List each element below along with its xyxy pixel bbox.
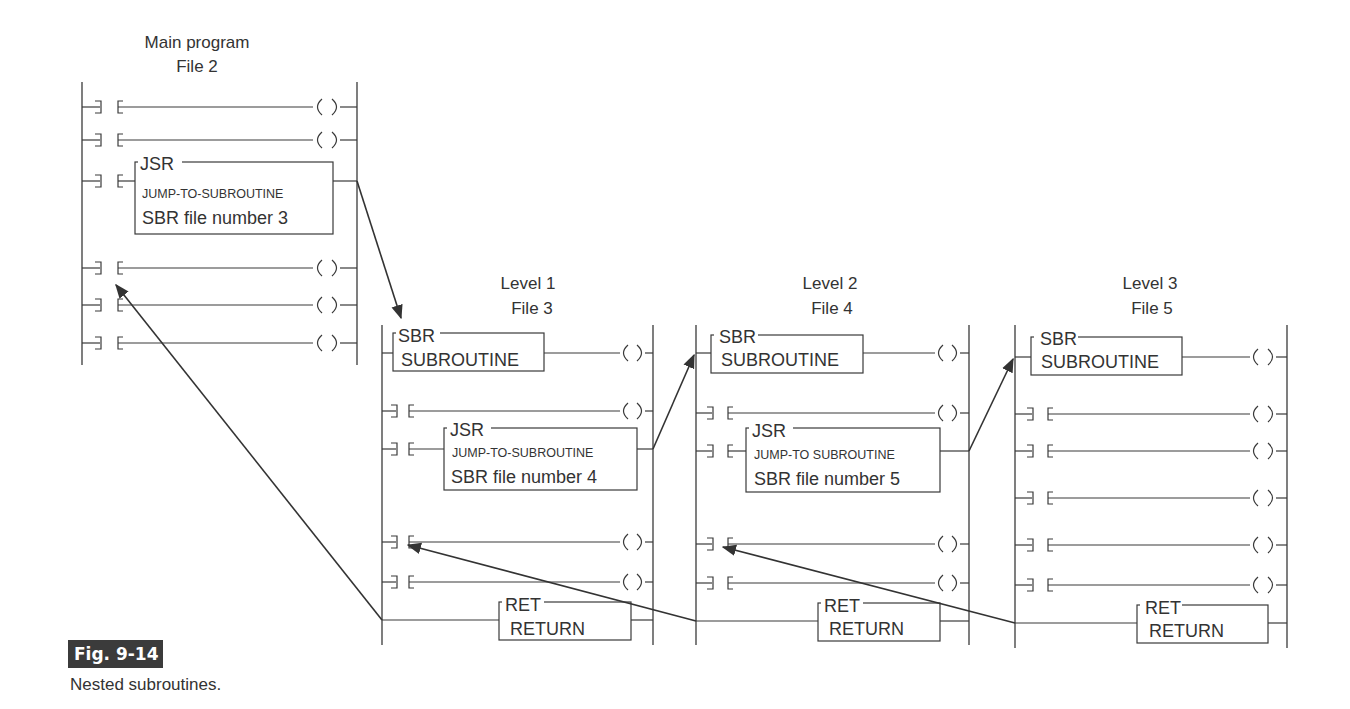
level1-title: Level 1 xyxy=(501,274,556,293)
main-program-file: File 2 xyxy=(176,57,218,76)
arrow-return-to-main xyxy=(116,285,382,620)
jsr-name: JUMP-TO-SUBROUTINE xyxy=(452,446,593,460)
level3-file: File 5 xyxy=(1131,299,1173,318)
level2-file: File 4 xyxy=(811,299,853,318)
rung xyxy=(82,297,357,313)
ret-name: RETURN xyxy=(510,619,585,639)
figure-caption: Nested subroutines. xyxy=(70,675,221,695)
rung xyxy=(82,99,357,115)
sbr-tag: SBR xyxy=(398,326,435,346)
level3-plain-rungs xyxy=(1015,406,1287,593)
level1-file: File 3 xyxy=(511,299,553,318)
ret-name: RETURN xyxy=(829,619,904,639)
arrow-jump-to-file4 xyxy=(653,355,694,449)
ret-tag: RET xyxy=(1145,598,1181,618)
level3-title: Level 3 xyxy=(1123,274,1178,293)
level3-ladder: Level 3 File 5 SBR SUBROUTINE xyxy=(1015,274,1287,648)
level1-ladder: Level 1 File 3 SBR SUBROUTINE JSR JUMP-T… xyxy=(382,274,653,645)
jsr-tag: JSR xyxy=(752,421,786,441)
rung xyxy=(82,335,357,351)
ladder-diagram: Main program File 2 xyxy=(0,0,1350,709)
sbr-tag: SBR xyxy=(719,327,756,347)
sbr-tag: SBR xyxy=(1040,329,1077,349)
rung-jsr: JSR JUMP-TO-SUBROUTINE SBR file number 3 xyxy=(82,154,357,234)
sbr-name: SUBROUTINE xyxy=(401,350,519,370)
sbr-name: SUBROUTINE xyxy=(721,350,839,370)
figure-number: Fig. 9-14 xyxy=(68,640,163,668)
jsr-param: SBR file number 5 xyxy=(754,469,900,489)
ret-tag: RET xyxy=(824,596,860,616)
ret-name: RETURN xyxy=(1149,621,1224,641)
jsr-tag: JSR xyxy=(450,420,484,440)
arrow-jump-to-file3 xyxy=(357,181,401,318)
jsr-name: JUMP-TO SUBROUTINE xyxy=(754,448,895,462)
level2-title: Level 2 xyxy=(803,274,858,293)
jsr-name: JUMP-TO-SUBROUTINE xyxy=(142,187,283,201)
main-program-ladder: Main program File 2 xyxy=(82,33,357,365)
rung xyxy=(82,260,357,276)
sbr-name: SUBROUTINE xyxy=(1041,352,1159,372)
main-program-title: Main program xyxy=(145,33,250,52)
rung xyxy=(82,132,357,148)
coil-icon xyxy=(332,99,337,115)
arrow-jump-to-file5 xyxy=(969,359,1013,451)
level2-ladder: Level 2 File 4 SBR SUBROUTINE JSR JUMP-T… xyxy=(696,274,969,645)
jsr-param: SBR file number 4 xyxy=(451,467,597,487)
coil-icon xyxy=(318,99,323,115)
jsr-param: SBR file number 3 xyxy=(142,208,288,228)
ret-tag: RET xyxy=(505,595,541,615)
jsr-tag: JSR xyxy=(140,154,174,174)
flow-arrows xyxy=(116,181,1015,623)
